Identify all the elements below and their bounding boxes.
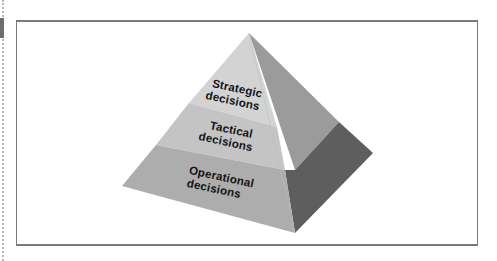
decision-pyramid: Strategic decisions Tactical decisions O… (0, 0, 497, 261)
